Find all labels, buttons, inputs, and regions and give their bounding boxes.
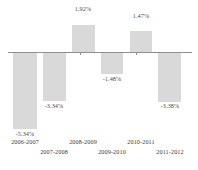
- bar-2007-2008[interactable]: [43, 53, 66, 101]
- category-label-2007-2008: 2007-2008: [34, 148, 74, 155]
- category-label-2010-2011: 2010-2011: [121, 138, 161, 145]
- value-label-2011-2012: -3.38%: [150, 102, 190, 109]
- axis-tick-2008-2009: [80, 52, 81, 55]
- value-label-2008-2009: 1.92%: [63, 5, 103, 12]
- bar-2010-2011[interactable]: [130, 31, 152, 52]
- value-label-2009-2010: -1.48%: [92, 75, 132, 82]
- category-label-2006-2007: 2006-2007: [5, 138, 45, 145]
- category-label-2011-2012: 2011-2012: [150, 148, 190, 155]
- value-label-2006-2007: -5.34%: [5, 130, 45, 137]
- bar-2008-2009[interactable]: [72, 25, 95, 52]
- category-label-2008-2009: 2008-2009: [63, 138, 103, 145]
- value-label-2010-2011: 1.47%: [121, 12, 161, 19]
- bar-chart: -5.34% -3.34% 1.92% -1.48% 1.47% -3.38% …: [0, 0, 198, 170]
- bar-2006-2007[interactable]: [13, 53, 37, 129]
- value-label-2007-2008: -3.34%: [34, 102, 74, 109]
- bar-2009-2010[interactable]: [101, 53, 123, 74]
- bar-2011-2012[interactable]: [158, 53, 181, 102]
- axis-tick-2010-2011: [136, 52, 137, 55]
- category-label-2009-2010: 2009-2010: [92, 148, 132, 155]
- plot-area: -5.34% -3.34% 1.92% -1.48% 1.47% -3.38%: [0, 0, 198, 134]
